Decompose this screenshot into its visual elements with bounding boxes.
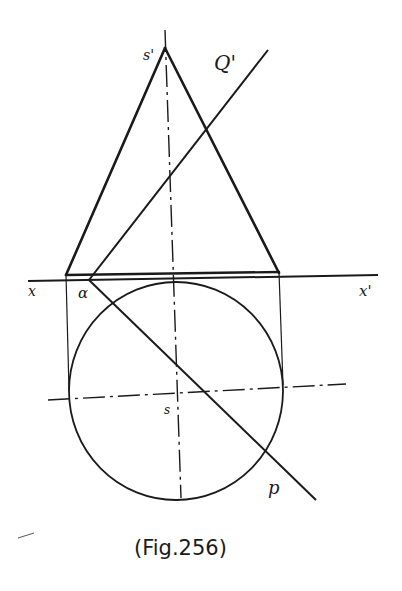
label-plane-ht: p [268, 477, 280, 498]
label-angle: α [78, 284, 88, 302]
figure-caption: (Fig.256) [134, 536, 227, 560]
label-plane-vt: Q' [214, 51, 236, 75]
label-apex-top: s [164, 403, 170, 417]
label-ground-right: x' [359, 282, 372, 300]
base-circle [69, 282, 283, 500]
stray-mark [18, 533, 34, 538]
label-apex-front: s' [143, 47, 154, 63]
cone-section-diagram: s' Q' x x' α s p (Fig.256) [0, 0, 402, 591]
label-ground-left: x [28, 283, 36, 299]
horizontal-center-line [48, 384, 346, 400]
axis-center-line [165, 30, 181, 498]
section-plane-ht [89, 280, 316, 500]
section-plane-vt [89, 50, 268, 280]
